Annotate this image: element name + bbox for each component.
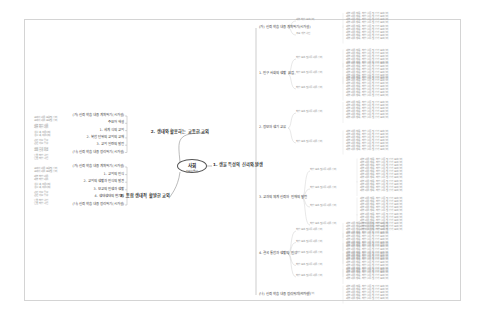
child-node-left[interactable]: (나) 신뢰 학습 내용 정리하기(시가설) — [72, 203, 124, 206]
sub-connector — [288, 254, 296, 266]
sub-node[interactable]: 학습 요소 및 활동 내용 정리 — [296, 141, 322, 144]
detail-text: 세부 내용 항목 - 학습 활동 및 평가 요소 정리 — [360, 210, 402, 213]
branch-connector — [170, 172, 180, 197]
child-node-left[interactable]: 2. 복합 단위의 교외의 교재 — [86, 136, 124, 139]
note-text: 단원 학습 확인 — [34, 203, 48, 206]
note-text: 생활 속 적용 사례 — [34, 135, 50, 138]
note-text: 생활 속 적용 사례 — [34, 187, 50, 190]
sub-node[interactable]: 주요 개념 확인 — [296, 33, 310, 36]
sub-node[interactable]: 학습 요소 및 활동 내용 정리 — [296, 87, 322, 90]
center-title: 사회 — [178, 162, 206, 168]
detail-text: 세부 내용 항목 - 학습 활동 및 평가 요소 정리 — [346, 278, 388, 281]
child-node-right[interactable]: (가) 신뢰 학습 내용 계획하기(시가설) — [259, 26, 311, 29]
branch-label-left[interactable]: 3. 통합 생태적 활발한 교외 — [120, 194, 170, 198]
child-node-left[interactable]: 4. 생태생태의 변기관 — [95, 195, 124, 198]
child-node-left[interactable]: 1. 세계 식의 교외 — [100, 129, 124, 132]
child-node-right[interactable]: 2. 정보와 생기 교류 — [259, 126, 286, 129]
center-subtitle: 신뢰성(중시) — [178, 169, 206, 173]
note-text: 세부 학습 내용 — [34, 179, 48, 182]
child-node-left[interactable]: 3. 교외 일련의 발전 — [97, 143, 124, 146]
sub-connector — [288, 254, 296, 277]
sub-node[interactable]: 학습 요소 및 활동 내용 정리 — [310, 223, 336, 226]
sub-node[interactable]: 학습 요소 및 활동 내용 정리 — [296, 275, 322, 278]
sub-node[interactable]: 학습 요소 및 활동 내용 정리 — [296, 57, 322, 60]
child-node-right[interactable]: 1. 인구 사회의 생활 요점 — [259, 72, 294, 75]
child-node-left[interactable]: 1. 교외의 인식 — [104, 173, 124, 176]
detail-text: 세부 내용 항목 - 학습 활동 및 평가 요소 정리 — [346, 38, 388, 41]
sub-connector — [288, 74, 296, 89]
sub-node[interactable]: 단원 학습 내용 정리 — [296, 293, 314, 296]
sub-connector — [288, 113, 296, 128]
note-text: 교외 환경 비교 — [34, 150, 48, 153]
child-node-left[interactable]: 주요어 해설 — [108, 121, 124, 124]
child-node-left[interactable]: (나) 신뢰 학습 내용 정리하기(시가설) — [72, 151, 124, 154]
sub-node[interactable]: 학습 요소 및 활동 내용 정리 — [310, 205, 336, 208]
sub-node[interactable]: 학습 요소 및 활동 내용 정리 — [296, 241, 322, 244]
note-text: 단원 학습 확인 — [34, 158, 48, 161]
note-text: 관련 자료 탐구 — [34, 143, 48, 146]
child-node-right[interactable]: 3. 교과의 체계 신뢰와 인재의 발전 — [259, 196, 307, 199]
child-node-left[interactable]: (가) 신뢰 학습 내용 계획하기(시가설) — [72, 165, 124, 168]
connector-lines — [0, 0, 488, 320]
child-node-left[interactable]: 2. 교외의 생활과 인식의 발견 — [83, 180, 124, 183]
detail-text: 세부 내용 항목 - 학습 활동 및 평가 요소 정리 — [360, 190, 402, 193]
sub-node[interactable]: 학습 요소 및 활동 내용 정리 — [296, 111, 322, 114]
branch-label-left[interactable]: 2. 생태와 활용하는 교통한 교외 — [151, 130, 209, 134]
sub-node[interactable]: 학습 요소 및 활동 내용 정리 — [296, 252, 322, 255]
child-node-left[interactable]: (가) 신뢰 학습 내용 계획하기(시가설) — [72, 114, 124, 117]
center-node[interactable]: 사회 신뢰성(중시) — [177, 159, 207, 173]
sub-node[interactable]: 세부 학습 요소 정리 — [296, 19, 314, 22]
child-node-left[interactable]: 3. 보교의 인생과 생활 — [94, 188, 124, 191]
note-text: 관련 자료 탐구 — [34, 195, 48, 198]
detail-text: 세부 내용 항목 - 학습 활동 및 평가 요소 정리 — [346, 149, 388, 152]
detail-text: 세부 내용 항목 - 학습 활동 및 평가 요소 정리 — [360, 177, 402, 180]
sub-node[interactable]: 학습 요소 및 활동 내용 정리 — [296, 264, 322, 267]
sub-node[interactable]: 학습 요소 및 활동 내용 정리 — [296, 72, 322, 75]
detail-text: 세부 내용 항목 - 학습 활동 및 평가 요소 정리 — [346, 117, 388, 120]
sub-connector — [302, 171, 310, 198]
sub-connector — [302, 198, 310, 225]
branch-label-right[interactable]: 1. 생물 특성의 신뢰와 발생 — [213, 163, 263, 167]
note-text: 교과서 내용 요약 및 정리 — [34, 120, 57, 123]
sub-node[interactable]: 학습 요소 및 활동 내용 정리 — [296, 229, 322, 232]
sub-connector — [288, 128, 296, 143]
sub-node[interactable]: 학습 요소 및 활동 내용 정리 — [310, 187, 336, 190]
detail-text: 세부 내용 항목 - 학습 활동 및 평가 요소 정리 — [346, 95, 388, 98]
note-text: 교과서 내용 요약 및 정리 — [34, 171, 57, 174]
sub-node[interactable]: 학습 요소 및 활동 내용 정리 — [310, 169, 336, 172]
note-text: 세부 학습 내용 — [34, 127, 48, 130]
child-node-right[interactable]: 4. 결국 통합과 생활의 인식 — [259, 252, 297, 255]
branch-connector — [179, 133, 209, 162]
detail-text: 세부 내용 항목 - 학습 활동 및 평가 요소 정리 — [346, 298, 388, 301]
